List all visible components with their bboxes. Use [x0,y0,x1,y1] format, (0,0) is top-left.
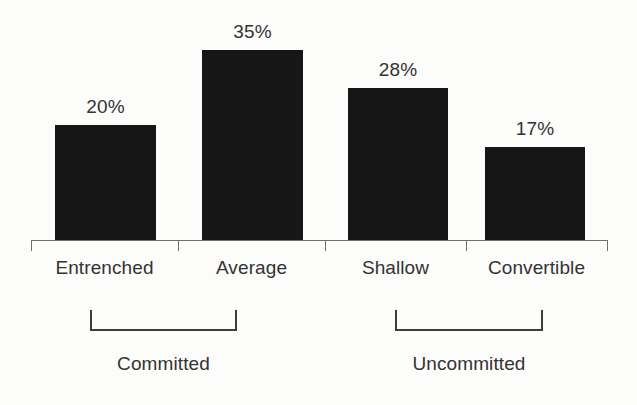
x-axis-label-average: Average [178,257,325,279]
bar-convertible [485,147,585,240]
x-axis-tick-start [31,240,32,251]
bar-value-label-average: 35% [202,21,303,43]
bar-entrenched [55,125,156,240]
x-axis-tick-1 [178,240,179,251]
x-axis-line [31,240,608,241]
group-label-committed: Committed [70,353,257,375]
x-axis-label-convertible: Convertible [466,257,607,279]
bracket-arm-left [395,310,397,331]
group-bracket-committed [90,310,237,331]
bar-value-label-entrenched: 20% [55,96,156,118]
x-axis-label-shallow: Shallow [325,257,466,279]
bar-shallow [348,88,448,240]
bracket-arm-left [90,310,92,331]
plot-area: 20% 35% 28% 17% [0,0,637,245]
bracket-arm-right [541,310,543,331]
x-axis-label-entrenched: Entrenched [31,257,178,279]
bar-chart: 20% 35% 28% 17% Entrenched Average Shall… [0,0,637,405]
bracket-bottom [90,329,237,331]
bracket-arm-right [235,310,237,331]
bar-value-label-shallow: 28% [348,59,448,81]
bar-value-label-convertible: 17% [485,118,585,140]
bar-average [202,50,303,240]
x-axis-tick-end [607,240,608,251]
x-axis-tick-2 [325,240,326,251]
group-label-uncommitted: Uncommitted [375,353,563,375]
x-axis-tick-3 [466,240,467,251]
bracket-bottom [395,329,543,331]
group-bracket-uncommitted [395,310,543,331]
